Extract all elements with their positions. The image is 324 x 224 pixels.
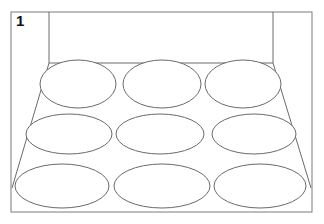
oval-r3-c1 — [15, 164, 109, 208]
oval-r2-c1 — [26, 114, 112, 154]
oval-r2-c3 — [212, 114, 296, 154]
oval-r3-c2 — [114, 164, 210, 208]
diagram-panel: 1 — [0, 0, 324, 224]
box-perspective-drawing — [0, 0, 324, 224]
oval-r2-c2 — [116, 114, 204, 154]
panel-number-label: 1 — [16, 12, 24, 29]
back-wall — [49, 12, 273, 63]
oval-r1-c2 — [123, 60, 201, 108]
oval-r1-c3 — [205, 60, 281, 108]
oval-grid — [15, 60, 306, 208]
oval-r1-c1 — [40, 60, 116, 108]
oval-r3-c3 — [214, 164, 306, 208]
